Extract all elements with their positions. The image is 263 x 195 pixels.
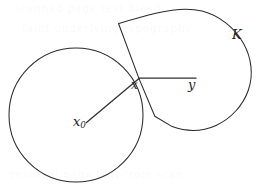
label-y: y: [188, 78, 195, 91]
label-x0-subscript: 0: [80, 120, 86, 130]
label-x-base: x: [131, 78, 138, 92]
label-x: x: [131, 79, 138, 91]
label-x0: x0: [73, 115, 86, 130]
label-K-base: K: [232, 27, 242, 42]
label-y-base: y: [188, 77, 195, 92]
geometry-drawing: [0, 0, 263, 195]
label-K: K: [232, 28, 242, 41]
figure-canvas: scanned page text bleed faint underlying…: [0, 0, 263, 195]
